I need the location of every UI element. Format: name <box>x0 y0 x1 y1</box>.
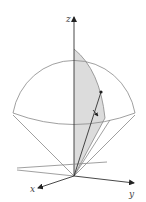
y-axis <box>74 176 134 183</box>
spherical-cone-diagram: z x y <box>0 0 146 202</box>
plane-line <box>17 162 107 168</box>
z-axis-label: z <box>65 14 71 24</box>
point-on-sphere <box>99 90 102 93</box>
x-axis-label: x <box>30 184 35 194</box>
plane-line-2 <box>17 170 74 176</box>
x-axis <box>38 176 74 188</box>
y-axis-label: y <box>128 189 135 199</box>
shaded-wedge <box>74 49 105 176</box>
